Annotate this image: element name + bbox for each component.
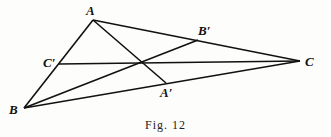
segment-C-C_prime — [59, 61, 300, 64]
figure-caption: Fig. 12 — [145, 118, 186, 132]
segment-A-A_prime — [93, 20, 166, 83]
label-C-prime: C′ — [43, 55, 56, 70]
label-A-prime: A′ — [159, 85, 173, 100]
label-C: C — [305, 54, 314, 69]
label-B-prime: B′ — [197, 23, 211, 38]
label-B: B — [8, 102, 18, 117]
triangle-cevians-diagram: A B C A′ B′ C′ Fig. 12 — [0, 0, 331, 137]
label-A: A — [85, 3, 95, 18]
